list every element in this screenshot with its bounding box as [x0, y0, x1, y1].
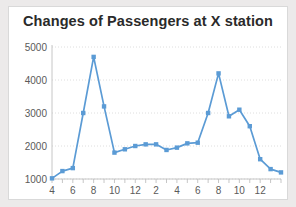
y-axis-tick-label: 5000 — [25, 42, 48, 53]
data-point — [143, 142, 147, 146]
y-axis-tick-labels: 10002000300040005000 — [25, 42, 48, 185]
data-point — [237, 108, 241, 112]
x-axis-tickmarks — [52, 179, 281, 183]
y-axis-tick-label: 2000 — [25, 141, 48, 152]
data-point — [268, 167, 272, 171]
x-axis-tick-labels: 468101224681012 — [49, 185, 266, 196]
data-point — [279, 170, 283, 174]
data-point — [248, 124, 252, 128]
x-axis-tick-label: 8 — [216, 185, 222, 196]
data-point — [206, 111, 210, 115]
series-line — [52, 57, 281, 178]
data-point — [102, 104, 106, 108]
data-point — [133, 144, 137, 148]
data-point — [81, 111, 85, 115]
data-point — [164, 148, 168, 152]
data-point — [175, 145, 179, 149]
data-point — [196, 141, 200, 145]
chart-card: Changes of Passengers at X station 10002… — [8, 6, 288, 200]
data-point — [258, 157, 262, 161]
data-point — [216, 71, 220, 75]
data-point — [185, 141, 189, 145]
data-point — [50, 176, 54, 180]
y-axis-tick-label: 1000 — [25, 174, 48, 185]
data-point — [123, 147, 127, 151]
data-point — [154, 142, 158, 146]
y-axis-tick-label: 3000 — [25, 108, 48, 119]
data-point — [227, 114, 231, 118]
y-axis-tick-label: 4000 — [25, 75, 48, 86]
x-axis-tick-label: 4 — [49, 185, 55, 196]
chart-title: Changes of Passengers at X station — [9, 13, 287, 29]
plot-area: 10002000300040005000 468101224681012 — [9, 33, 289, 201]
data-point — [91, 55, 95, 59]
x-axis-tick-label: 8 — [91, 185, 97, 196]
x-axis-tick-label: 10 — [234, 185, 246, 196]
x-axis-tick-label: 6 — [195, 185, 201, 196]
x-axis-tick-label: 2 — [153, 185, 159, 196]
x-axis-tick-label: 4 — [174, 185, 180, 196]
data-point — [71, 166, 75, 170]
gridlines — [52, 47, 281, 179]
x-axis-tick-label: 12 — [130, 185, 142, 196]
x-axis-tick-label: 6 — [70, 185, 76, 196]
x-axis — [52, 45, 281, 179]
series-markers — [50, 55, 283, 181]
line-chart: 10002000300040005000 468101224681012 — [9, 33, 289, 201]
data-point — [60, 169, 64, 173]
x-axis-tick-label: 12 — [255, 185, 267, 196]
x-axis-tick-label: 10 — [109, 185, 121, 196]
data-point — [112, 150, 116, 154]
